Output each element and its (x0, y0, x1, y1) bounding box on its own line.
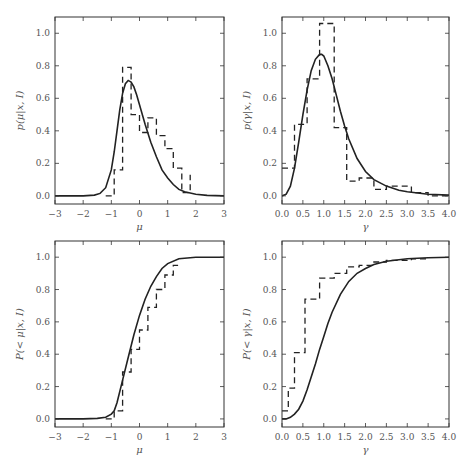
x-tick-label: 1.0 (317, 209, 332, 219)
y-tick-label: 0.6 (263, 317, 278, 327)
axes-frame (55, 241, 224, 427)
y-tick-label: 0.4 (36, 349, 51, 359)
dashed-step-histogram (106, 265, 182, 419)
plot-area (282, 24, 449, 196)
y-axis-label: P(< γ|x, I) (241, 308, 253, 360)
x-tick-label: 1.0 (317, 432, 332, 442)
y-axis-label: p(μ|x, I) (14, 90, 26, 130)
y-tick-label: 0.4 (263, 126, 278, 136)
x-tick-label: 2.0 (358, 209, 373, 219)
x-axis-label: γ (363, 444, 369, 455)
x-tick-label: 0 (137, 432, 143, 442)
y-tick-label: 0.0 (263, 191, 278, 201)
y-tick-label: 0.2 (36, 382, 50, 392)
y-tick-label: 0.8 (263, 285, 278, 295)
x-tick-label: 1 (165, 432, 171, 442)
x-axis-label: μ (136, 221, 143, 232)
x-tick-label: −2 (77, 209, 90, 219)
y-axis-label: p(γ|x, I) (241, 91, 253, 131)
x-tick-label: 0 (137, 209, 143, 219)
y-tick-label: 0.2 (36, 158, 50, 168)
x-tick-label: 4.0 (442, 432, 457, 442)
x-tick-label: 1.5 (337, 432, 352, 442)
x-tick-label: 2.5 (379, 432, 394, 442)
y-tick-label: 0.4 (263, 349, 278, 359)
x-tick-label: 1.5 (337, 209, 352, 219)
plot-area (55, 257, 224, 419)
y-tick-label: 0.6 (36, 317, 51, 327)
x-tick-label: 2 (193, 209, 199, 219)
x-tick-label: 3.0 (400, 209, 415, 219)
x-tick-label: 0.0 (275, 432, 290, 442)
x-tick-label: 2.5 (379, 209, 394, 219)
x-tick-label: 3.5 (421, 209, 436, 219)
panel-top-right: 0.00.51.01.52.02.53.03.54.00.00.20.40.60… (241, 17, 456, 232)
dashed-step-histogram (282, 259, 428, 411)
figure: −3−2−101230.00.20.40.60.81.0μp(μ|x, I) 0… (0, 0, 472, 468)
y-tick-label: 1.0 (263, 252, 278, 262)
panel-bottom-left: −3−2−101230.00.20.40.60.81.0μP(< μ|x, I) (14, 241, 227, 455)
x-axis-label: γ (363, 221, 369, 232)
x-tick-label: −1 (105, 209, 118, 219)
solid-curve (55, 80, 224, 195)
y-tick-label: 1.0 (36, 252, 51, 262)
y-tick-label: 0.8 (36, 285, 51, 295)
x-tick-label: 2 (193, 432, 199, 442)
y-tick-label: 0.0 (263, 414, 278, 424)
x-tick-label: −3 (48, 432, 62, 442)
solid-curve (282, 257, 449, 419)
y-tick-label: 0.6 (263, 93, 278, 103)
y-tick-label: 0.2 (263, 158, 277, 168)
x-tick-label: 1 (165, 209, 171, 219)
y-tick-label: 0.2 (263, 382, 277, 392)
y-axis-label: P(< μ|x, I) (14, 308, 26, 361)
x-tick-label: 2.0 (358, 432, 373, 442)
x-tick-label: −2 (77, 432, 90, 442)
y-tick-label: 0.8 (263, 61, 278, 71)
x-tick-label: 0.5 (296, 209, 311, 219)
x-tick-label: 3 (221, 209, 227, 219)
y-tick-label: 0.6 (36, 93, 51, 103)
x-tick-label: 4.0 (442, 209, 457, 219)
y-tick-label: 1.0 (36, 28, 51, 38)
plot-area (282, 257, 449, 419)
x-tick-label: 3.5 (421, 432, 436, 442)
axes-frame (55, 17, 224, 204)
x-axis-label: μ (136, 444, 143, 455)
x-tick-label: 3.0 (400, 432, 415, 442)
panel-bottom-right: 0.00.51.01.52.02.53.03.54.00.00.20.40.60… (241, 241, 456, 455)
y-tick-label: 0.8 (36, 61, 51, 71)
x-tick-label: −3 (48, 209, 62, 219)
solid-curve (282, 54, 449, 196)
y-tick-label: 0.0 (36, 414, 51, 424)
y-tick-label: 0.0 (36, 191, 51, 201)
y-tick-label: 0.4 (36, 126, 51, 136)
x-tick-label: 0.5 (296, 432, 311, 442)
y-tick-label: 1.0 (263, 28, 278, 38)
plot-area (55, 67, 224, 196)
x-tick-label: 3 (221, 432, 227, 442)
x-tick-label: −1 (105, 432, 118, 442)
x-tick-label: 0.0 (275, 209, 290, 219)
panel-top-left: −3−2−101230.00.20.40.60.81.0μp(μ|x, I) (14, 17, 227, 232)
